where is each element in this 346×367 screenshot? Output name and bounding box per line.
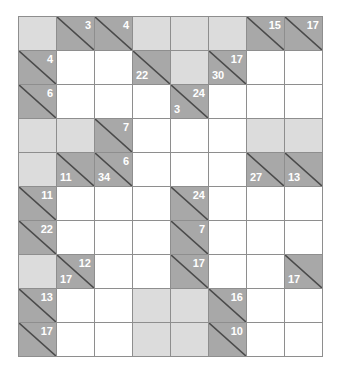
down-clue-r1c2: 3 [85, 20, 91, 31]
blocked-cell-r5c1 [19, 153, 57, 187]
kakuro-row: 7 [19, 119, 323, 153]
clue-cell-r1c7: 15 [247, 17, 285, 51]
entry-cell-r3c6[interactable] [209, 85, 247, 119]
entry-cell-r10c3[interactable] [95, 323, 133, 357]
entry-cell-r8c6[interactable] [209, 255, 247, 289]
blocked-cell-r4c7 [247, 119, 285, 153]
clue-cell-r5c2: 11 [57, 153, 95, 187]
kakuro-row: 227 [19, 221, 323, 255]
entry-cell-r3c4[interactable] [133, 85, 171, 119]
entry-cell-r8c4[interactable] [133, 255, 171, 289]
kakuro-row: 341517 [19, 17, 323, 51]
blocked-cell-r10c5 [171, 323, 209, 357]
clue-cell-r1c3: 4 [95, 17, 133, 51]
blocked-cell-r4c1 [19, 119, 57, 153]
across-clue-r2c4: 22 [136, 70, 148, 81]
down-clue-r7c1: 22 [41, 224, 53, 235]
entry-cell-r3c3[interactable] [95, 85, 133, 119]
kakuro-row: 1710 [19, 323, 323, 357]
entry-cell-r9c2[interactable] [57, 289, 95, 323]
entry-cell-r7c6[interactable] [209, 221, 247, 255]
entry-cell-r8c7[interactable] [247, 255, 285, 289]
blocked-cell-r9c4 [133, 289, 171, 323]
down-clue-r9c6: 16 [231, 292, 243, 303]
entry-cell-r7c4[interactable] [133, 221, 171, 255]
entry-cell-r6c8[interactable] [285, 187, 323, 221]
clue-cell-r10c6: 10 [209, 323, 247, 357]
entry-cell-r10c2[interactable] [57, 323, 95, 357]
entry-cell-r6c2[interactable] [57, 187, 95, 221]
entry-cell-r5c6[interactable] [209, 153, 247, 187]
blocked-cell-r4c2 [57, 119, 95, 153]
clue-cell-r3c5: 243 [171, 85, 209, 119]
down-clue-r6c5: 24 [193, 190, 205, 201]
entry-cell-r10c8[interactable] [285, 323, 323, 357]
clue-cell-r8c5: 17 [171, 255, 209, 289]
entry-cell-r6c4[interactable] [133, 187, 171, 221]
entry-cell-r7c3[interactable] [95, 221, 133, 255]
down-clue-r8c2: 12 [79, 258, 91, 269]
entry-cell-r3c7[interactable] [247, 85, 285, 119]
clue-cell-r6c1: 11 [19, 187, 57, 221]
entry-cell-r6c7[interactable] [247, 187, 285, 221]
entry-cell-r7c2[interactable] [57, 221, 95, 255]
clue-cell-r7c1: 22 [19, 221, 57, 255]
entry-cell-r2c7[interactable] [247, 51, 285, 85]
entry-cell-r2c3[interactable] [95, 51, 133, 85]
blocked-cell-r4c8 [285, 119, 323, 153]
entry-cell-r8c3[interactable] [95, 255, 133, 289]
clue-cell-r7c5: 7 [171, 221, 209, 255]
clue-cell-r2c6: 1730 [209, 51, 247, 85]
entry-cell-r4c6[interactable] [209, 119, 247, 153]
clue-cell-r3c1: 6 [19, 85, 57, 119]
kakuro-grid: 3415174221730624371163427131124227121717… [18, 16, 323, 357]
entry-cell-r4c4[interactable] [133, 119, 171, 153]
across-clue-r8c2: 17 [60, 274, 72, 285]
entry-cell-r10c7[interactable] [247, 323, 285, 357]
kakuro-puzzle-container: 3415174221730624371163427131124227121717… [0, 0, 346, 367]
entry-cell-r3c8[interactable] [285, 85, 323, 119]
entry-cell-r7c7[interactable] [247, 221, 285, 255]
entry-cell-r3c2[interactable] [57, 85, 95, 119]
blocked-cell-r1c5 [171, 17, 209, 51]
kakuro-row: 1124 [19, 187, 323, 221]
entry-cell-r4c5[interactable] [171, 119, 209, 153]
entry-cell-r6c3[interactable] [95, 187, 133, 221]
kakuro-row: 116342713 [19, 153, 323, 187]
entry-cell-r9c8[interactable] [285, 289, 323, 323]
clue-cell-r4c3: 7 [95, 119, 133, 153]
entry-cell-r7c8[interactable] [285, 221, 323, 255]
down-clue-r3c1: 6 [47, 88, 53, 99]
entry-cell-r5c4[interactable] [133, 153, 171, 187]
entry-cell-r9c7[interactable] [247, 289, 285, 323]
down-clue-r9c1: 13 [41, 292, 53, 303]
clue-cell-r8c8: 17 [285, 255, 323, 289]
across-clue-r5c2: 11 [60, 172, 72, 183]
down-clue-r5c3: 6 [123, 156, 129, 167]
down-clue-r2c6: 17 [231, 54, 243, 65]
across-clue-r5c7: 27 [250, 172, 262, 183]
across-clue-r8c8: 17 [288, 274, 300, 285]
entry-cell-r9c3[interactable] [95, 289, 133, 323]
clue-cell-r10c1: 17 [19, 323, 57, 357]
clue-cell-r5c7: 27 [247, 153, 285, 187]
entry-cell-r6c6[interactable] [209, 187, 247, 221]
down-clue-r8c5: 17 [193, 258, 205, 269]
clue-cell-r1c2: 3 [57, 17, 95, 51]
blocked-cell-r1c1 [19, 17, 57, 51]
blocked-cell-r9c5 [171, 289, 209, 323]
entry-cell-r2c8[interactable] [285, 51, 323, 85]
entry-cell-r2c2[interactable] [57, 51, 95, 85]
down-clue-r1c3: 4 [123, 20, 129, 31]
across-clue-r3c5: 3 [174, 104, 180, 115]
clue-cell-r2c1: 4 [19, 51, 57, 85]
kakuro-row: 12171717 [19, 255, 323, 289]
clue-cell-r6c5: 24 [171, 187, 209, 221]
kakuro-row: 6243 [19, 85, 323, 119]
entry-cell-r5c5[interactable] [171, 153, 209, 187]
blocked-cell-r1c6 [209, 17, 247, 51]
clue-cell-r5c3: 634 [95, 153, 133, 187]
down-clue-r7c5: 7 [199, 224, 205, 235]
kakuro-grid-body: 3415174221730624371163427131124227121717… [19, 17, 323, 357]
down-clue-r10c6: 10 [231, 326, 243, 337]
